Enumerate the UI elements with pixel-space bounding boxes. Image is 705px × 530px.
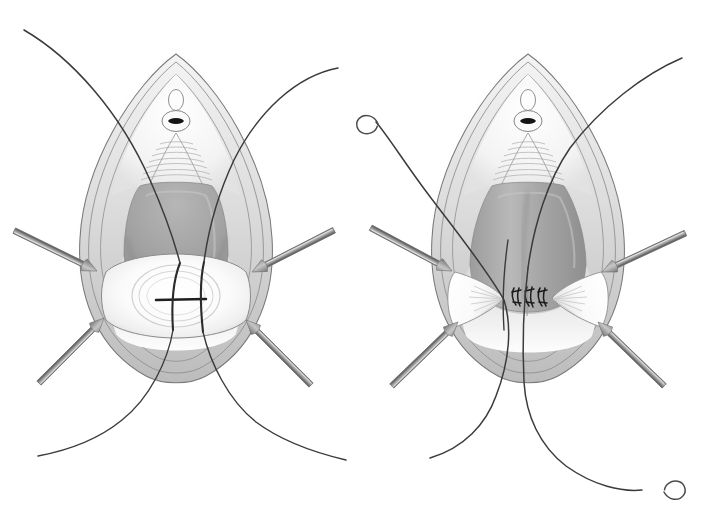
- right-urethral-meatus-icon: [520, 118, 536, 124]
- left-clitoral-hood-icon: [169, 90, 184, 111]
- left-suture-crossbar: [156, 299, 206, 300]
- surgical-illustration: [0, 0, 705, 530]
- left-urethral-meatus-icon: [168, 118, 184, 124]
- figure-root: Sutures placed, incision open Sutures ti…: [0, 0, 705, 530]
- left-circular-incision-site[interactable]: [102, 254, 251, 338]
- right-clitoral-hood-icon: [521, 90, 536, 111]
